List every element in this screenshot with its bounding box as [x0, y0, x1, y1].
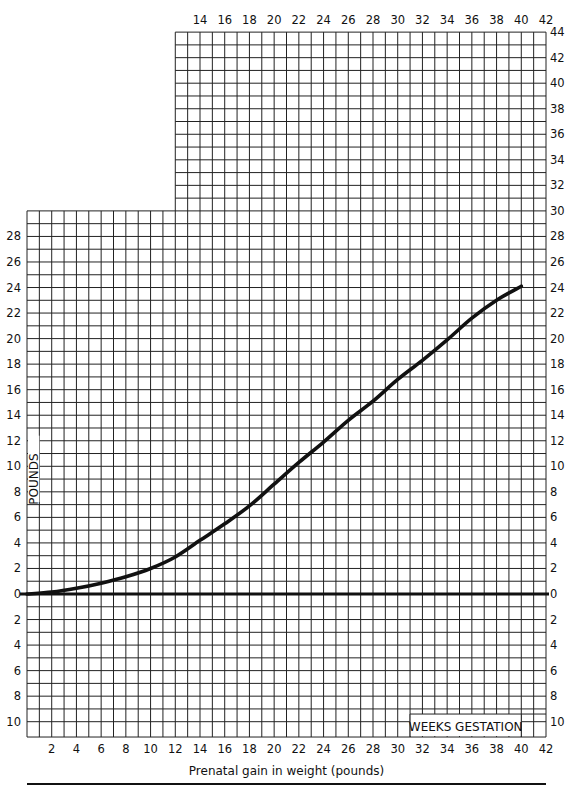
svg-text:28: 28	[6, 229, 21, 243]
svg-text:24: 24	[550, 281, 565, 295]
svg-text:16: 16	[6, 383, 21, 397]
svg-text:8: 8	[14, 689, 21, 703]
svg-text:44: 44	[550, 25, 565, 39]
svg-text:30: 30	[390, 742, 405, 756]
svg-text:4: 4	[550, 638, 557, 652]
svg-text:6: 6	[550, 664, 557, 678]
svg-text:22: 22	[6, 306, 21, 320]
svg-text:26: 26	[6, 255, 21, 269]
svg-text:POUNDS: POUNDS	[27, 453, 41, 504]
svg-text:40: 40	[550, 76, 565, 90]
svg-text:12: 12	[550, 434, 565, 448]
svg-text:42: 42	[550, 51, 565, 65]
svg-text:8: 8	[550, 485, 557, 499]
svg-text:20: 20	[6, 332, 21, 346]
svg-text:30: 30	[390, 13, 405, 27]
svg-text:32: 32	[550, 178, 565, 192]
svg-text:22: 22	[550, 306, 565, 320]
svg-text:2: 2	[14, 613, 21, 627]
svg-text:24: 24	[316, 13, 331, 27]
svg-text:40: 40	[514, 13, 529, 27]
svg-text:34: 34	[440, 13, 455, 27]
svg-text:16: 16	[217, 13, 232, 27]
svg-text:32: 32	[415, 13, 430, 27]
svg-text:36: 36	[465, 742, 480, 756]
svg-text:6: 6	[14, 664, 21, 678]
svg-text:14: 14	[6, 408, 21, 422]
svg-text:22: 22	[292, 13, 307, 27]
svg-text:30: 30	[550, 204, 565, 218]
svg-text:2: 2	[48, 742, 55, 756]
svg-text:14: 14	[193, 742, 208, 756]
svg-text:8: 8	[14, 485, 21, 499]
svg-text:10: 10	[6, 459, 21, 473]
svg-text:WEEKS GESTATION: WEEKS GESTATION	[409, 720, 523, 734]
svg-text:10: 10	[550, 715, 565, 729]
chart-grid	[27, 32, 546, 737]
svg-text:36: 36	[550, 127, 565, 141]
svg-text:6: 6	[550, 510, 557, 524]
svg-text:24: 24	[6, 281, 21, 295]
svg-text:16: 16	[550, 383, 565, 397]
svg-text:34: 34	[550, 153, 565, 167]
svg-text:4: 4	[14, 536, 21, 550]
svg-text:28: 28	[550, 229, 565, 243]
svg-text:18: 18	[242, 13, 257, 27]
svg-text:14: 14	[550, 408, 565, 422]
svg-text:12: 12	[168, 742, 183, 756]
axis-ticks: 1416182022242628303234363840422468101214…	[6, 13, 564, 756]
svg-text:24: 24	[316, 742, 331, 756]
svg-text:40: 40	[514, 742, 529, 756]
chart-caption: Prenatal gain in weight (pounds)	[27, 764, 546, 778]
svg-text:26: 26	[550, 255, 565, 269]
caption-rule	[27, 783, 546, 785]
svg-text:28: 28	[366, 742, 381, 756]
svg-text:2: 2	[14, 561, 21, 575]
svg-text:26: 26	[341, 742, 356, 756]
svg-text:0: 0	[550, 587, 557, 601]
svg-text:42: 42	[539, 742, 554, 756]
weight-gain-chart: 1416182022242628303234363840422468101214…	[0, 0, 570, 801]
svg-text:4: 4	[14, 638, 21, 652]
svg-text:38: 38	[489, 13, 504, 27]
svg-text:18: 18	[550, 357, 565, 371]
svg-text:4: 4	[73, 742, 80, 756]
svg-text:22: 22	[292, 742, 307, 756]
svg-text:20: 20	[267, 742, 282, 756]
svg-text:28: 28	[366, 13, 381, 27]
svg-text:8: 8	[550, 689, 557, 703]
svg-text:10: 10	[6, 715, 21, 729]
svg-text:6: 6	[14, 510, 21, 524]
svg-text:2: 2	[550, 613, 557, 627]
svg-text:18: 18	[242, 742, 257, 756]
svg-text:4: 4	[550, 536, 557, 550]
svg-text:26: 26	[341, 13, 356, 27]
svg-text:16: 16	[217, 742, 232, 756]
svg-text:38: 38	[489, 742, 504, 756]
svg-text:38: 38	[550, 102, 565, 116]
svg-text:34: 34	[440, 742, 455, 756]
svg-text:10: 10	[143, 742, 158, 756]
svg-text:36: 36	[465, 13, 480, 27]
svg-text:18: 18	[6, 357, 21, 371]
svg-text:10: 10	[550, 459, 565, 473]
svg-text:12: 12	[6, 434, 21, 448]
svg-text:8: 8	[122, 742, 129, 756]
svg-text:2: 2	[550, 561, 557, 575]
svg-text:20: 20	[550, 332, 565, 346]
svg-text:20: 20	[267, 13, 282, 27]
svg-text:0: 0	[14, 587, 21, 601]
svg-text:6: 6	[97, 742, 104, 756]
svg-text:32: 32	[415, 742, 430, 756]
svg-text:14: 14	[193, 13, 208, 27]
